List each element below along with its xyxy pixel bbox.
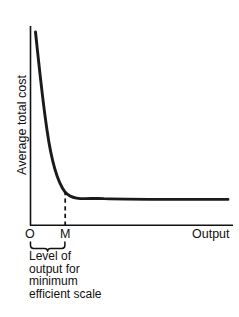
figure-caption-line-1: Level of xyxy=(29,250,102,263)
average-total-cost-curve xyxy=(36,32,229,199)
figure-caption-line-3: minimum xyxy=(29,275,102,288)
average-total-cost-figure: Average total cost Output O M Level of o… xyxy=(0,0,239,317)
y-axis-title: Average total cost xyxy=(13,62,31,188)
y-axis-title-text: Average total cost xyxy=(16,75,29,175)
figure-caption: Level of output for minimum efficient sc… xyxy=(29,250,102,300)
figure-caption-line-4: efficient scale xyxy=(29,288,102,301)
x-tick-label-m: M xyxy=(60,228,70,241)
x-axis-title: Output xyxy=(192,228,230,241)
x-tick-label-origin: O xyxy=(25,228,35,241)
